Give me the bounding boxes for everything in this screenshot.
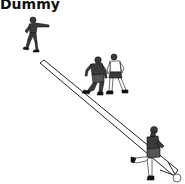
receiver-player-icon [131, 127, 164, 181]
diagram-canvas [0, 0, 185, 184]
passer-player-icon [23, 17, 49, 52]
ball-icon [173, 174, 181, 182]
defender-player-icon [106, 54, 128, 94]
dummy-runner-player-icon [82, 57, 107, 95]
